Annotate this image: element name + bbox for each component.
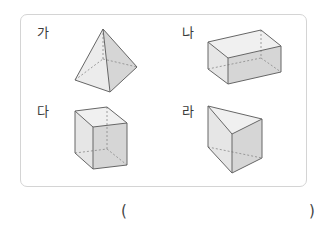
- triangular-prism-icon: [205, 102, 267, 178]
- answer-open-paren: (: [121, 204, 127, 219]
- square-pyramid-icon: [70, 26, 142, 96]
- rectangular-cuboid-icon: [206, 28, 288, 86]
- label-da: 다: [37, 105, 49, 118]
- label-na: 나: [182, 26, 194, 39]
- answer-blank[interactable]: [135, 204, 303, 222]
- label-ra: 라: [182, 105, 194, 118]
- label-ga: 가: [37, 26, 49, 39]
- answer-close-paren: ): [309, 204, 315, 219]
- cube-icon: [72, 104, 142, 174]
